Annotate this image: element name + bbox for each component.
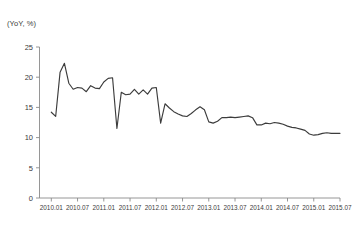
x-tick-label: 2014.07 <box>276 204 300 211</box>
y-tick-label: 5 <box>29 164 33 173</box>
y-tick-label: 25 <box>25 43 33 52</box>
y-axis-tick-labels: 0510152025 <box>25 43 33 203</box>
line-chart-plot: 0510152025 2010.012010.072011.012011.072… <box>0 0 355 237</box>
x-tick-label: 2013.07 <box>223 204 247 211</box>
y-axis-tick-marks <box>36 47 40 198</box>
y-tick-label: 20 <box>25 73 33 82</box>
chart-screenshot: (YoY, %) 0510152025 2010.012010.072011.0… <box>0 0 355 237</box>
y-tick-label: 10 <box>25 133 33 142</box>
x-tick-label: 2010.07 <box>66 204 90 211</box>
x-tick-label: 2014.01 <box>250 204 274 211</box>
x-tick-label: 2013.01 <box>197 204 221 211</box>
x-tick-label: 2011.01 <box>92 204 115 211</box>
x-axis-tick-marks <box>51 198 340 202</box>
x-tick-label: 2012.07 <box>171 204 195 211</box>
x-tick-label: 2010.01 <box>40 204 64 211</box>
x-tick-label: 2011.07 <box>119 204 142 211</box>
x-tick-label: 2015.01 <box>302 204 326 211</box>
x-tick-label: 2012.01 <box>145 204 169 211</box>
y-tick-label: 15 <box>25 103 33 112</box>
data-series-line <box>51 63 340 135</box>
y-tick-label: 0 <box>29 194 33 203</box>
x-axis-tick-labels: 2010.012010.072011.012011.072012.012012.… <box>40 204 352 211</box>
x-tick-label: 2015.07 <box>328 204 352 211</box>
